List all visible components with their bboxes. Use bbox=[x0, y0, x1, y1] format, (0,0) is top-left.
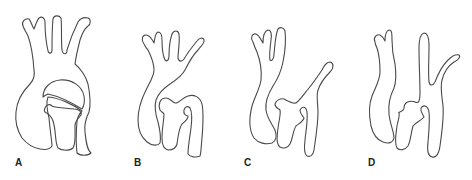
panel-b-inner-loop bbox=[159, 95, 203, 157]
panel-a-drawing bbox=[16, 16, 91, 155]
panel-d-left-vessel bbox=[370, 30, 396, 143]
panel-label-b: B bbox=[134, 158, 141, 168]
panel-d-right-loop bbox=[395, 33, 459, 157]
panel-b-drawing bbox=[138, 31, 204, 157]
panel-c-drawing bbox=[250, 28, 333, 157]
panel-c-right-loop bbox=[275, 62, 333, 156]
panel-label-d: D bbox=[368, 158, 375, 168]
panel-c-left-vessel bbox=[250, 28, 285, 144]
panel-label-c: C bbox=[244, 158, 251, 168]
panel-b-arch-outline bbox=[138, 31, 204, 145]
panel-label-a: A bbox=[15, 158, 22, 168]
panel-d-drawing bbox=[370, 30, 460, 157]
figure-canvas bbox=[0, 0, 472, 180]
panel-a-arch-outline bbox=[16, 16, 91, 155]
